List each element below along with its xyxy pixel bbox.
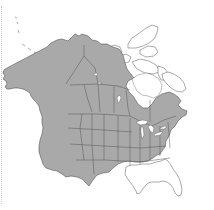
north-america-map <box>0 0 214 210</box>
range-map: North America range map <box>0 0 214 210</box>
southeast-us-outside <box>125 159 182 196</box>
frame-edge <box>1 6 3 204</box>
aleutian-islands <box>15 17 43 56</box>
